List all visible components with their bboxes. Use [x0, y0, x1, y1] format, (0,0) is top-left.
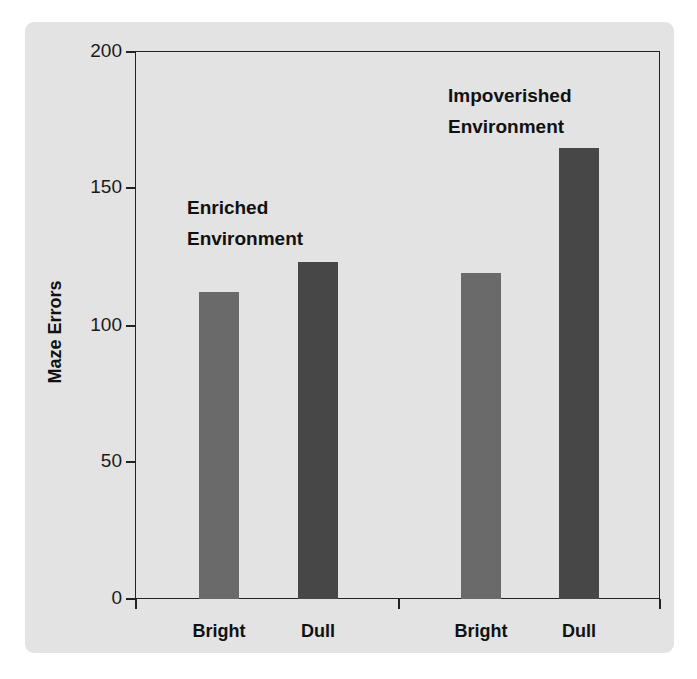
y-tick-label-50: 50 — [101, 451, 122, 471]
x-label-enriched-bright: Bright — [193, 621, 246, 642]
group-label-impoverished: Impoverished Environment — [448, 80, 572, 142]
x-label-impoverished-dull: Dull — [562, 621, 596, 642]
x-tick-right — [659, 599, 661, 609]
group-label-enriched-line1: Enriched — [187, 192, 303, 223]
bar-impoverished-bright — [461, 273, 501, 599]
y-tick-50 — [126, 461, 136, 463]
x-label-enriched-dull: Dull — [301, 621, 335, 642]
x-label-impoverished-bright: Bright — [455, 621, 508, 642]
group-label-impoverished-line1: Impoverished — [448, 80, 572, 111]
x-tick-middle — [398, 599, 400, 609]
y-axis-label: Maze Errors — [45, 280, 66, 383]
y-tick-label-0: 0 — [111, 588, 122, 608]
bar-enriched-dull — [298, 262, 338, 599]
y-tick-200 — [126, 51, 136, 53]
x-tick-left — [135, 599, 137, 609]
y-tick-100 — [126, 325, 136, 327]
group-label-enriched-line2: Environment — [187, 223, 303, 254]
y-tick-label-150: 150 — [90, 177, 122, 197]
y-tick-label-200: 200 — [90, 41, 122, 61]
group-label-impoverished-line2: Environment — [448, 111, 572, 142]
y-tick-label-100: 100 — [90, 315, 122, 335]
y-tick-150 — [126, 187, 136, 189]
group-label-enriched: Enriched Environment — [187, 192, 303, 254]
bar-impoverished-dull — [559, 148, 599, 599]
bar-enriched-bright — [199, 292, 239, 599]
